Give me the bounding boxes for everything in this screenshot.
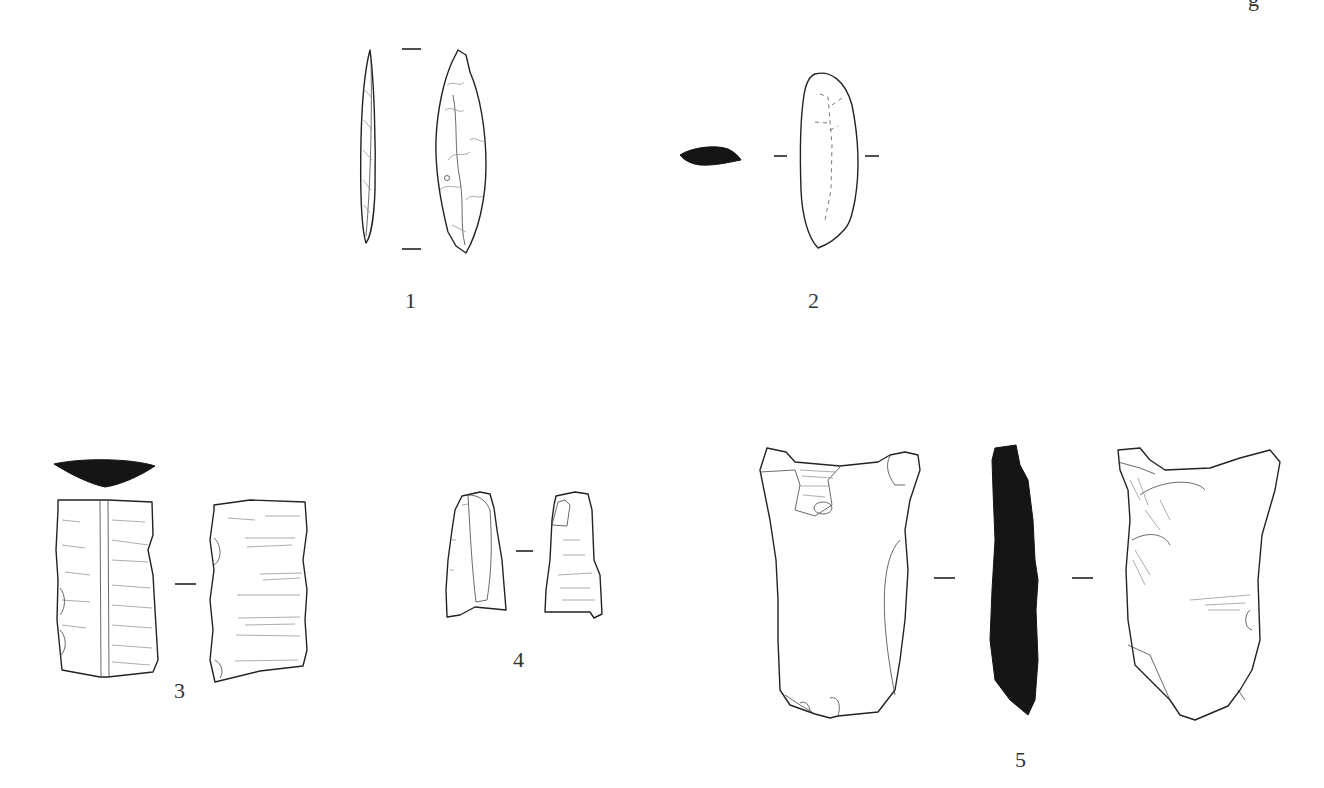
artifact-label-3: 3: [174, 678, 185, 703]
artifact-2-section: [680, 147, 741, 165]
artifact-label-5: 5: [1015, 747, 1026, 772]
artifact-3-dorsal: [56, 500, 158, 677]
artifact-5-ventral: [1118, 448, 1280, 720]
artifact-1-dorsal: [436, 50, 486, 253]
artifact-3-ventral: [210, 500, 307, 682]
artifact-5-profile-section: [990, 445, 1038, 715]
artifact-label-1: 1: [405, 288, 416, 313]
artifact-drawings: 1 2 3: [0, 0, 1324, 788]
artifact-2-dorsal: [800, 73, 857, 248]
artifact-4-ventral: [545, 492, 602, 618]
artifact-4-dorsal: [446, 492, 506, 617]
artifact-label-2: 2: [808, 288, 819, 313]
artifact-5-dorsal: [760, 448, 920, 718]
artifact-label-4: 4: [513, 647, 524, 672]
artifact-1-profile: [361, 50, 376, 243]
artifact-plate: g 1 2: [0, 0, 1324, 788]
artifact-3-section: [54, 460, 155, 487]
